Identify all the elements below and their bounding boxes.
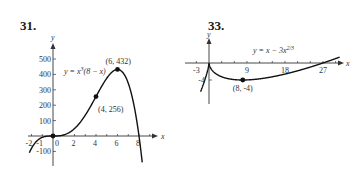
x-tick-label: 6 — [115, 139, 119, 148]
x-tick-label: -3 — [193, 66, 200, 75]
x-tick-label: 0 — [55, 139, 59, 148]
y-axis-label: y — [50, 33, 55, 42]
equation-label: y = x3(8 − x) — [63, 66, 106, 76]
point-label: (8, -4) — [233, 84, 253, 93]
x-tick-label: 4 — [93, 139, 97, 148]
x-tick-label: 27 — [319, 66, 327, 75]
data-point — [51, 134, 56, 139]
y-tick-label: 500 — [39, 55, 51, 64]
y-tick-label: 400 — [39, 70, 51, 79]
x-axis-label: x — [160, 132, 165, 141]
y-tick-label: 100 — [39, 117, 51, 126]
y-axis-label: y — [206, 30, 211, 39]
data-point — [94, 94, 99, 99]
x-axis-label: x — [345, 59, 350, 68]
x-tick-label: -2 — [26, 139, 33, 148]
y-tick-label: -100 — [36, 147, 51, 156]
y-tick-label: 200 — [39, 101, 51, 110]
x-axis-arrow-icon — [152, 134, 158, 139]
point-label: (4, 256) — [98, 105, 124, 114]
data-point — [115, 67, 120, 72]
y-axis-arrow-icon — [51, 43, 56, 49]
x-tick-label: 2 — [72, 139, 76, 148]
charts-canvas: xy-2-102468500400300200100-100(4, 256)(6… — [0, 0, 353, 172]
equation-label: y = x − 3x2/3 — [252, 45, 294, 55]
y-tick-label: 300 — [39, 86, 51, 95]
x-axis-arrow-icon — [338, 61, 344, 66]
point-label: (6, 432) — [106, 57, 132, 66]
x-tick-label: 9 — [245, 66, 249, 75]
data-point — [240, 78, 245, 83]
